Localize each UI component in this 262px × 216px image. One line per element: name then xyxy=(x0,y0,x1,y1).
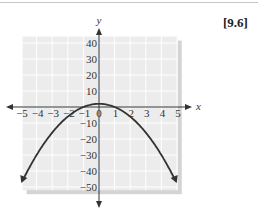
y-tick-label: −40 xyxy=(80,165,98,177)
y-tick-label: −10 xyxy=(80,117,98,129)
y-axis-down-arrow-icon xyxy=(96,201,102,208)
y-tick-label: 30 xyxy=(86,53,98,65)
x-axis-right-arrow-icon xyxy=(185,104,192,110)
x-tick-label: 4 xyxy=(160,107,166,119)
x-tick-label: −4 xyxy=(32,107,44,119)
x-tick-label: 5 xyxy=(175,107,181,119)
y-tick-label: −20 xyxy=(80,133,98,145)
y-tick-label: 10 xyxy=(86,85,98,97)
parabola-chart: xy−5−4−3−2−101234540302010−10−20−30−40−5… xyxy=(0,0,262,216)
y-tick-label: −30 xyxy=(80,149,98,161)
x-axis-left-arrow-icon xyxy=(6,104,13,110)
x-tick-label: −3 xyxy=(47,107,59,119)
y-axis-up-arrow-icon xyxy=(96,28,102,35)
x-tick-label: 0 xyxy=(96,107,102,119)
y-axis-label: y xyxy=(96,14,102,26)
y-tick-label: 40 xyxy=(86,37,98,49)
y-tick-label: −50 xyxy=(80,181,98,193)
x-axis-label: x xyxy=(195,100,201,112)
x-tick-label: −5 xyxy=(16,107,28,119)
x-tick-label: 3 xyxy=(144,107,150,119)
y-tick-label: 20 xyxy=(86,69,98,81)
